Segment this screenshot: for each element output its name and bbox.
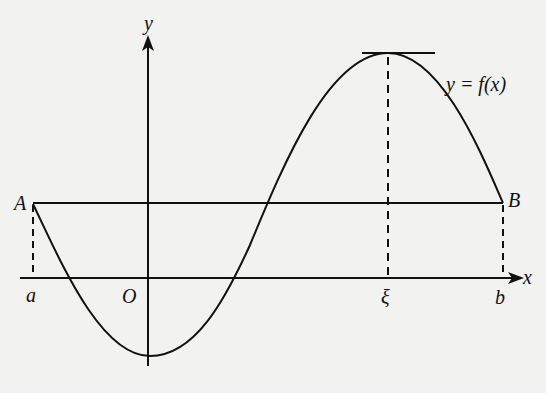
b-label: b (495, 286, 505, 308)
function-curve (33, 53, 503, 356)
point-a-label: A (12, 192, 27, 214)
x-axis-label: x (522, 266, 532, 288)
y-axis-label: y (142, 12, 153, 35)
curve-label: y = f(x) (444, 73, 506, 96)
a-label: a (26, 284, 36, 306)
mean-value-theorem-diagram: y x O A B a b ξ y = f(x) (0, 0, 546, 393)
point-b-label: B (508, 189, 520, 211)
origin-label: O (122, 285, 136, 307)
xi-label: ξ (381, 286, 390, 308)
